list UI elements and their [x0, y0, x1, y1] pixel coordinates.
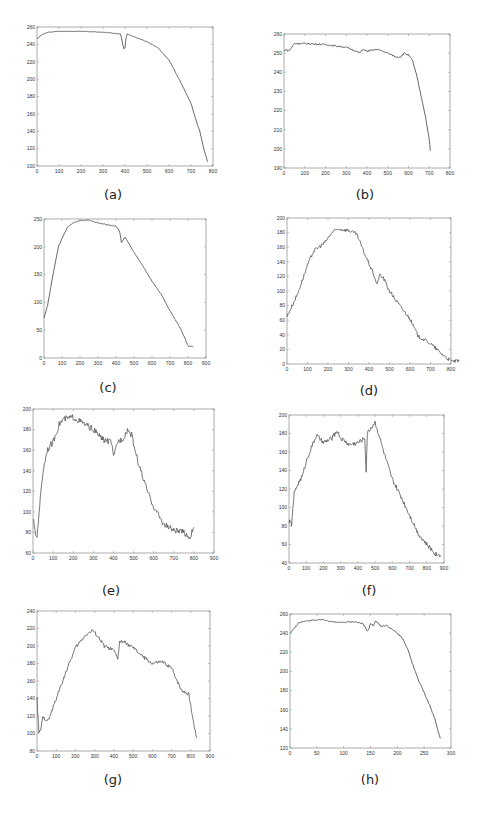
x-tick-label: 400 [363, 170, 372, 176]
y-tick-label: 200 [34, 244, 43, 250]
chart-f: 0100200300400500600700800900406080100120… [0, 0, 478, 815]
x-tick-label: 400 [110, 753, 119, 759]
x-tick-label: 100 [302, 565, 311, 571]
caption-d: (d) [360, 383, 378, 398]
x-tick-label: 900 [440, 565, 449, 571]
x-tick-label: 400 [112, 360, 121, 366]
x-tick-label: 250 [420, 750, 429, 756]
data-line [33, 415, 194, 539]
x-tick-label: 500 [129, 555, 138, 561]
y-tick-label: 260 [274, 31, 283, 37]
y-tick-label: 120 [279, 486, 288, 492]
x-tick-label: 300 [447, 750, 456, 756]
y-tick-label: 200 [280, 668, 289, 674]
x-tick-label: 200 [393, 750, 402, 756]
plot-area [289, 415, 444, 563]
chart-g: 0100200300400500600700800900801001201401… [0, 0, 478, 815]
y-tick-label: 260 [280, 611, 289, 617]
caption-g: (g) [104, 772, 122, 787]
y-tick-label: 80 [29, 748, 35, 754]
y-tick-label: 80 [279, 302, 285, 308]
data-line [290, 619, 440, 738]
data-line [284, 43, 430, 151]
x-tick-label: 0 [288, 565, 291, 571]
x-tick-label: 800 [190, 555, 199, 561]
y-tick-label: 80 [25, 529, 31, 535]
y-tick-label: 120 [277, 273, 286, 279]
y-tick-label: 220 [280, 649, 289, 655]
y-tick-label: 160 [277, 244, 286, 250]
y-tick-label: 120 [280, 745, 289, 751]
x-tick-label: 800 [184, 360, 193, 366]
y-tick-label: 250 [34, 216, 43, 222]
y-tick-label: 210 [274, 127, 283, 133]
y-tick-label: 60 [25, 550, 31, 556]
y-tick-label: 160 [279, 449, 288, 455]
y-tick-label: 140 [23, 468, 32, 474]
x-tick-label: 300 [89, 555, 98, 561]
x-tick-label: 0 [36, 753, 39, 759]
chart-a: 0100200300400500600700800100120140160180… [0, 0, 478, 815]
x-tick-label: 300 [342, 170, 351, 176]
x-tick-label: 200 [324, 366, 333, 372]
y-tick-label: 50 [36, 327, 42, 333]
x-tick-label: 200 [319, 565, 328, 571]
x-tick-label: 300 [94, 360, 103, 366]
x-tick-label: 200 [321, 170, 330, 176]
y-tick-label: 40 [281, 560, 287, 566]
x-tick-label: 0 [36, 168, 39, 174]
y-tick-label: 100 [277, 288, 286, 294]
x-tick-label: 300 [336, 565, 345, 571]
y-tick-label: 140 [27, 695, 36, 701]
y-tick-label: 160 [27, 111, 36, 117]
x-tick-label: 700 [426, 366, 435, 372]
plot-area [37, 611, 210, 751]
y-tick-label: 100 [27, 163, 36, 169]
x-tick-label: 150 [366, 750, 375, 756]
y-tick-label: 140 [27, 128, 36, 134]
y-tick-label: 140 [277, 259, 286, 265]
plot-area [37, 27, 213, 166]
caption-f: (f) [362, 583, 377, 598]
caption-e: (e) [102, 583, 120, 598]
x-tick-label: 700 [425, 170, 434, 176]
x-tick-label: 200 [76, 360, 85, 366]
x-tick-label: 700 [187, 168, 196, 174]
y-tick-label: 230 [274, 88, 283, 94]
y-tick-label: 190 [274, 165, 283, 171]
x-tick-label: 300 [90, 753, 99, 759]
plot-area [33, 409, 214, 553]
x-tick-label: 0 [32, 555, 35, 561]
x-tick-label: 800 [446, 170, 455, 176]
y-tick-label: 0 [39, 355, 42, 361]
caption-a: (a) [104, 187, 122, 202]
y-tick-label: 180 [277, 229, 286, 235]
caption-h: (h) [361, 772, 379, 787]
x-tick-label: 0 [43, 360, 46, 366]
y-tick-label: 40 [279, 332, 285, 338]
y-tick-label: 240 [27, 41, 36, 47]
y-tick-label: 200 [27, 76, 36, 82]
y-tick-label: 60 [279, 317, 285, 323]
plot-area [290, 614, 451, 748]
x-tick-label: 200 [77, 168, 86, 174]
y-tick-label: 200 [274, 146, 283, 152]
y-tick-label: 180 [23, 426, 32, 432]
y-tick-label: 100 [279, 504, 288, 510]
x-tick-label: 100 [301, 170, 310, 176]
x-tick-label: 300 [99, 168, 108, 174]
data-line [37, 31, 208, 162]
y-tick-label: 180 [27, 93, 36, 99]
x-tick-label: 700 [166, 360, 175, 366]
x-tick-label: 600 [148, 360, 157, 366]
x-tick-label: 100 [55, 168, 64, 174]
x-tick-label: 500 [129, 753, 138, 759]
caption-c: (c) [99, 380, 116, 395]
y-tick-label: 240 [280, 630, 289, 636]
x-tick-label: 900 [202, 360, 211, 366]
y-tick-label: 20 [279, 346, 285, 352]
x-tick-label: 500 [130, 360, 139, 366]
x-tick-label: 400 [109, 555, 118, 561]
plot-area [44, 219, 206, 358]
y-tick-label: 160 [23, 447, 32, 453]
